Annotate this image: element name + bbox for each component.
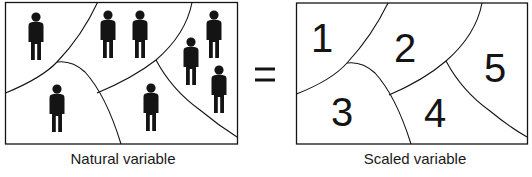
scaled-variable-caption: Scaled variable bbox=[332, 150, 498, 167]
person-icon bbox=[50, 84, 65, 132]
person-icon bbox=[133, 10, 148, 58]
person-icon bbox=[144, 83, 159, 131]
person-icon bbox=[212, 65, 227, 113]
person-icon bbox=[29, 12, 44, 60]
region-label-2: 2 bbox=[394, 26, 416, 70]
person-icon bbox=[207, 10, 222, 58]
equals-sign-icon bbox=[255, 68, 275, 82]
person-icon bbox=[184, 37, 199, 85]
left-boundary-1 bbox=[6, 3, 98, 94]
region-label-3: 3 bbox=[331, 90, 353, 134]
left-boundary-4 bbox=[156, 60, 237, 137]
natural-variable-caption: Natural variable bbox=[40, 150, 206, 167]
region-label-4: 4 bbox=[424, 91, 446, 135]
region-label-5: 5 bbox=[484, 46, 506, 90]
natural-variable-panel bbox=[6, 3, 238, 145]
figure: 1 2 3 4 5 Natural variable Scaled variab… bbox=[0, 0, 532, 177]
right-boundary-3 bbox=[347, 63, 411, 144]
left-boundary-3 bbox=[57, 62, 121, 144]
region-label-1: 1 bbox=[311, 16, 333, 60]
person-icon bbox=[101, 10, 116, 58]
scaled-variable-panel: 1 2 3 4 5 bbox=[297, 3, 528, 144]
